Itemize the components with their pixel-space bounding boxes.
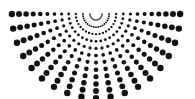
- dot-marker: [102, 60, 106, 64]
- dot-marker: [136, 12, 140, 16]
- dot-marker: [23, 11, 29, 17]
- dot-marker: [122, 90, 128, 96]
- dot-marker: [91, 33, 93, 35]
- dot-marker: [95, 33, 97, 35]
- dot-marker: [93, 26, 95, 28]
- dot-marker: [106, 20, 108, 22]
- dot-marker: [102, 24, 104, 26]
- dot-marker: [14, 40, 20, 46]
- dot-marker: [55, 78, 61, 84]
- dot-marker: [53, 60, 58, 65]
- dot-marker: [9, 11, 15, 17]
- dot-marker: [126, 39, 130, 43]
- dot-marker: [85, 21, 87, 23]
- dot-marker: [105, 21, 107, 23]
- dot-marker: [20, 53, 26, 59]
- dot-marker: [170, 11, 176, 17]
- dot-marker: [135, 19, 139, 23]
- dot-marker: [82, 15, 84, 17]
- dot-marker: [124, 30, 127, 33]
- dot-marker: [128, 72, 134, 78]
- dot-marker: [52, 36, 56, 40]
- dot-marker: [61, 18, 64, 21]
- dot-marker: [115, 70, 120, 75]
- dot-marker: [105, 30, 107, 32]
- dot-marker: [53, 19, 57, 23]
- dot-marker: [76, 20, 78, 22]
- dot-marker: [77, 42, 80, 45]
- dot-marker: [111, 58, 115, 62]
- dot-marker: [65, 30, 68, 33]
- dot-marker: [132, 78, 138, 84]
- dot-marker: [69, 22, 72, 25]
- dot-marker: [103, 23, 105, 25]
- dot-marker: [107, 18, 109, 20]
- dot-marker: [97, 26, 99, 28]
- dot-marker: [114, 20, 116, 22]
- dot-marker: [51, 48, 56, 53]
- dot-marker: [116, 30, 119, 33]
- dot-marker: [104, 73, 109, 78]
- dot-marker: [115, 16, 117, 18]
- dot-marker: [40, 56, 46, 62]
- dot-marker: [110, 26, 112, 28]
- dot-marker: [142, 40, 147, 45]
- dot-marker: [68, 35, 71, 38]
- dot-marker: [118, 54, 122, 58]
- dot-marker: [83, 73, 88, 78]
- dot-marker: [66, 60, 71, 65]
- dot-marker: [91, 25, 93, 27]
- dot-marker: [34, 61, 40, 67]
- dot-marker: [165, 37, 171, 43]
- dot-marker: [100, 46, 103, 49]
- dot-marker: [87, 53, 91, 57]
- dot-marker: [119, 83, 125, 89]
- dot-marker: [133, 26, 137, 30]
- dot-marker: [142, 20, 146, 24]
- dot-marker: [55, 26, 59, 30]
- dot-marker: [117, 77, 123, 83]
- dot-marker: [127, 24, 130, 27]
- dot-marker: [67, 13, 70, 16]
- dot-marker: [26, 50, 32, 56]
- dot-marker: [101, 53, 105, 57]
- dot-marker: [72, 39, 75, 42]
- dot-marker: [122, 13, 125, 16]
- dot-marker: [130, 54, 135, 59]
- dot-marker: [93, 88, 99, 94]
- dot-marker: [105, 80, 111, 86]
- dot-marker: [70, 54, 74, 58]
- dot-marker: [95, 26, 97, 28]
- dot-marker: [130, 33, 134, 37]
- dot-marker: [24, 23, 30, 29]
- dot-marker: [39, 21, 44, 26]
- dot-marker: [154, 46, 160, 52]
- dot-marker: [112, 34, 115, 37]
- dot-marker: [147, 75, 153, 81]
- dot-marker: [80, 87, 86, 93]
- dot-marker: [177, 11, 183, 17]
- dot-marker: [122, 17, 125, 20]
- dot-marker: [108, 51, 112, 55]
- dot-marker: [77, 23, 79, 25]
- dot-marker: [39, 75, 45, 81]
- dot-marker: [81, 36, 84, 39]
- dot-marker: [125, 49, 129, 53]
- dot-marker: [106, 45, 109, 48]
- dot-marker: [28, 35, 34, 41]
- dot-marker: [75, 16, 77, 18]
- dot-marker: [53, 12, 57, 16]
- dot-marker: [83, 18, 85, 20]
- dot-marker: [64, 90, 70, 96]
- dot-marker: [108, 13, 110, 15]
- dot-marker: [112, 42, 115, 45]
- dot-marker: [93, 74, 98, 79]
- dot-marker: [82, 13, 84, 15]
- dot-marker: [156, 11, 161, 16]
- dot-marker: [89, 24, 91, 26]
- dot-marker: [81, 80, 87, 86]
- dot-marker: [135, 84, 141, 90]
- dot-marker: [121, 44, 125, 48]
- dot-marker: [169, 24, 175, 30]
- dot-marker: [115, 13, 117, 15]
